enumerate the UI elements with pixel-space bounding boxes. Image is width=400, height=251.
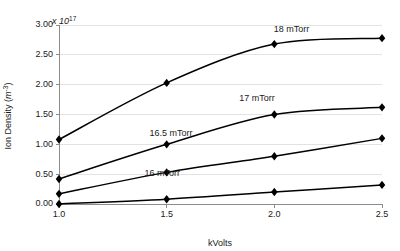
y-tick-label: 0.50: [35, 169, 53, 179]
series-line-18-mtorr: [59, 38, 382, 139]
data-point-marker: [56, 135, 63, 143]
y-tick-label: 2.00: [35, 79, 53, 89]
y-title-prefix: Ion Density (: [3, 99, 13, 150]
series-label-16-5-mtorr: 16.5 mTorr: [149, 128, 192, 138]
y-tick-label: 1.00: [35, 139, 53, 149]
data-point-marker: [163, 79, 170, 87]
y-tick-label: 3.00: [35, 19, 53, 29]
series-label-16-mtorr: 16 mTorr: [145, 168, 181, 178]
series-label-17-mtorr: 17 mTorr: [239, 93, 275, 103]
y-title-suffix: ): [3, 83, 13, 86]
data-series-lines: [59, 38, 382, 204]
data-point-marker: [163, 195, 170, 203]
exponent-power: 17: [69, 15, 77, 22]
data-point-marker: [271, 152, 278, 160]
series-line-16-5-mtorr: [59, 138, 382, 193]
data-point-marker: [56, 200, 63, 208]
data-point-marker: [379, 103, 386, 111]
series-line-17-mtorr: [59, 107, 382, 179]
ion-density-chart: 0.000.501.001.502.002.503.00 1.01.52.02.…: [0, 0, 400, 251]
y-tick-label: 2.50: [35, 49, 53, 59]
data-point-marker: [271, 188, 278, 196]
y-tick-label: 0.00: [35, 198, 53, 208]
data-point-marker: [271, 110, 278, 118]
y-tick-label: 1.50: [35, 109, 53, 119]
grid-lines: [59, 25, 382, 204]
data-point-marker: [271, 40, 278, 48]
x-tick-labels: 1.01.52.02.5: [53, 204, 389, 219]
chart-canvas: 0.000.501.001.502.002.503.00 1.01.52.02.…: [0, 0, 400, 251]
x-tick-label: 2.5: [376, 209, 389, 219]
y-axis-exponent: x 1017: [51, 15, 77, 27]
data-point-marker: [163, 140, 170, 148]
x-tick-label: 1.5: [160, 209, 173, 219]
x-tick-label: 2.0: [268, 209, 281, 219]
y-tick-labels: 0.000.501.001.502.002.503.00: [35, 19, 59, 208]
data-point-marker: [379, 34, 386, 42]
data-point-marker: [56, 190, 63, 198]
series-line-16-mtorr: [59, 185, 382, 204]
data-point-marker: [379, 181, 386, 189]
exponent-mantissa: x 10: [51, 16, 69, 26]
x-axis-title: kVolts: [208, 238, 233, 248]
data-point-marker: [56, 175, 63, 183]
y-axis-title: Ion Density (m-3): [2, 83, 14, 150]
x-tick-label: 1.0: [53, 209, 66, 219]
data-point-marker: [379, 134, 386, 142]
series-label-18-mtorr: 18 mTorr: [274, 24, 310, 34]
